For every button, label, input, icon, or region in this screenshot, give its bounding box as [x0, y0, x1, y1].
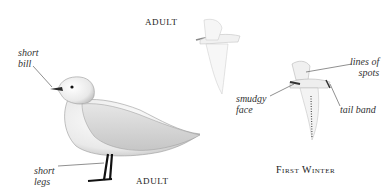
caption-first-winter: First Winter	[276, 164, 335, 175]
label-tail-band: tail band	[340, 104, 376, 115]
flying-first-winter-bird	[290, 61, 330, 140]
standing-adult-bird	[50, 77, 200, 181]
label-smudgy-face: smudgy face	[236, 93, 267, 115]
label-lines-of-spots: lines of spots	[350, 56, 379, 78]
caption-adult-standing: ADULT	[136, 176, 169, 186]
caption-adult-flying: ADULT	[145, 17, 178, 27]
label-short-legs: short legs	[34, 165, 55, 187]
label-short-bill: short bill	[18, 47, 39, 69]
flying-adult-bird	[196, 19, 240, 94]
